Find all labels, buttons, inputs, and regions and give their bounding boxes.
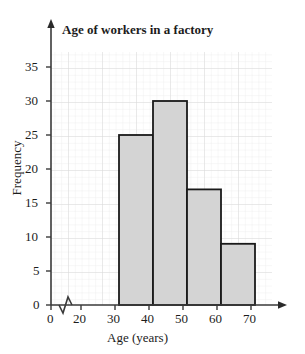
x-tick-label-0: 0 [47, 311, 54, 327]
arrow-right-icon [278, 301, 287, 308]
bar-20-30 [119, 135, 153, 305]
x-tick-label-20: 20 [73, 311, 86, 327]
y-tick-label-10: 10 [25, 229, 38, 245]
y-tick-label-15: 15 [25, 195, 38, 211]
x-tick-label-40: 40 [141, 311, 154, 327]
x-tick-label-30: 30 [107, 311, 120, 327]
x-tick-label-50: 50 [175, 311, 188, 327]
y-tick-label-0: 0 [33, 297, 40, 313]
x-axis-title: Age (years) [107, 330, 168, 346]
histogram-chart: Age of workers in a factory Age (years) … [0, 0, 305, 354]
bar-50-60 [221, 244, 255, 305]
chart-canvas [0, 0, 305, 354]
arrow-up-icon [47, 19, 54, 28]
x-tick-label-60: 60 [209, 311, 222, 327]
y-tick-label-35: 35 [25, 59, 38, 75]
y-tick-label-5: 5 [33, 263, 40, 279]
bar-30-40 [153, 101, 187, 305]
y-tick-label-30: 30 [25, 93, 38, 109]
y-tick-label-20: 20 [25, 161, 38, 177]
bar-40-50 [187, 189, 221, 305]
y-axis-title: Frequency [9, 128, 25, 208]
chart-title: Age of workers in a factory [62, 22, 213, 38]
x-tick-label-70: 70 [243, 311, 256, 327]
y-tick-label-25: 25 [25, 127, 38, 143]
